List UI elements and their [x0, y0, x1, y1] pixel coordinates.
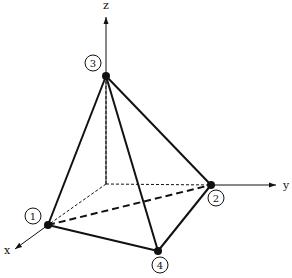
node-2-label: 2	[208, 190, 224, 206]
node-3-point	[102, 72, 110, 80]
node-4-label-text: 4	[157, 260, 163, 271]
node-2-point	[207, 181, 215, 189]
y-axis-label: y	[282, 179, 290, 192]
node-2-label-text: 2	[213, 193, 219, 204]
tetrahedron-diagram: 1 2 3 4 z y x	[0, 0, 292, 278]
node-4-point	[154, 247, 162, 255]
edge-1-3	[48, 76, 106, 225]
edge-1-2-hidden	[48, 185, 211, 225]
node-1-label: 1	[25, 208, 41, 224]
edge-4-2	[158, 185, 211, 251]
z-axis-label: z	[103, 0, 109, 12]
x-axis	[15, 225, 48, 249]
node-4-label: 4	[152, 257, 168, 273]
y-projection-dashed	[106, 184, 211, 185]
edge-1-4	[48, 225, 158, 251]
node-1-label-text: 1	[30, 211, 36, 222]
node-1-point	[44, 221, 52, 229]
node-3-label: 3	[85, 55, 101, 71]
node-3-label-text: 3	[90, 58, 96, 69]
x-axis-label: x	[4, 244, 11, 257]
